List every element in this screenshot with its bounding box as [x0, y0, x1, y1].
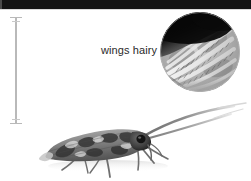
- scale-bar-top-inner-tick: [12, 21, 20, 22]
- top-black-band: [0, 0, 251, 9]
- top-band-left-edge: [0, 0, 2, 9]
- caddisfly-specimen-photo: [22, 100, 251, 181]
- figure-canvas: wings hairy: [0, 0, 251, 181]
- callout-label-wings-hairy: wings hairy: [101, 44, 157, 57]
- scale-bar-bottom-inner-tick: [12, 119, 20, 120]
- vertical-scale-bar: [15, 17, 17, 124]
- scale-bar-top-cap: [10, 17, 22, 18]
- scale-bar-bottom-cap: [10, 123, 22, 124]
- top-band-hairline: [0, 9, 251, 10]
- magnified-wing-circle: [160, 12, 240, 92]
